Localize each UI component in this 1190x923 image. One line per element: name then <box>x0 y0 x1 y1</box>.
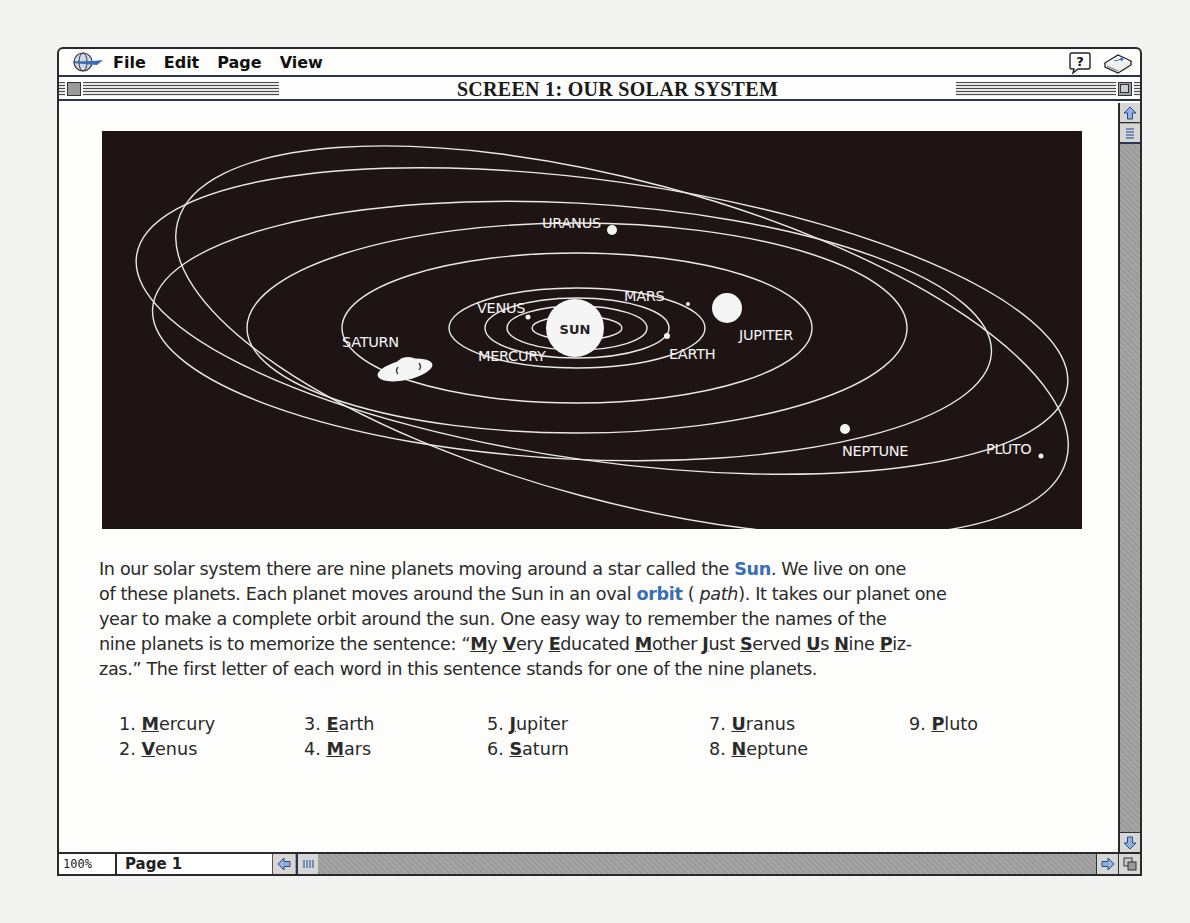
solar-system-diagram: SUN URANUS VENUS MARS <box>102 131 1082 529</box>
planet-list-item: 2. Venus <box>119 737 197 762</box>
arrow-right-icon <box>1101 857 1115 871</box>
vertical-scrollbar[interactable] <box>1118 103 1140 852</box>
paragraph-line: In our solar system there are nine plane… <box>99 557 1099 582</box>
scroll-right-button[interactable] <box>1096 854 1118 874</box>
close-box[interactable] <box>67 82 81 96</box>
arrow-left-icon <box>277 857 291 871</box>
keyword-sun-link[interactable]: Sun <box>734 559 771 579</box>
zoom-level[interactable]: 100% <box>59 854 117 874</box>
jupiter-label: JUPITER <box>738 327 793 343</box>
mars-label: MARS <box>624 288 665 304</box>
app-window: File Edit Page View ? SCREEN 1: OUR SOLA… <box>57 47 1142 876</box>
svg-text:?: ? <box>1076 54 1084 69</box>
body-paragraph: In our solar system there are nine plane… <box>99 557 1099 682</box>
scroll-down-button[interactable] <box>1120 832 1140 852</box>
resize-icon <box>1123 857 1137 871</box>
venus-label: VENUS <box>477 300 525 316</box>
planet-list-item: 5. Jupiter <box>487 712 568 737</box>
menu-edit[interactable]: Edit <box>164 53 200 72</box>
help-balloon-icon[interactable]: ? <box>1068 51 1092 75</box>
book-icon[interactable] <box>1102 51 1134 75</box>
paragraph-line: year to make a complete orbit around the… <box>99 607 1099 632</box>
zoom-box[interactable] <box>1118 82 1132 96</box>
resize-handle[interactable] <box>1118 854 1140 874</box>
planet-list-item: 6. Saturn <box>487 737 569 762</box>
pluto-label: PLUTO <box>986 441 1031 457</box>
neptune-label: NEPTUNE <box>842 443 908 459</box>
window-title: SCREEN 1: OUR SOLAR SYSTEM <box>441 78 794 101</box>
mercury-label: MERCURY <box>478 348 546 364</box>
menu-file[interactable]: File <box>113 53 146 72</box>
sun-label: SUN <box>560 322 591 337</box>
scroll-left-button[interactable] <box>273 854 295 874</box>
planet-list-item: 1. Mercury <box>119 712 215 737</box>
planet-list-item: 8. Neptune <box>709 737 808 762</box>
menu-page[interactable]: Page <box>217 53 261 72</box>
horizontal-scrollbar[interactable] <box>273 854 1140 874</box>
planet-list-item: 4. Mars <box>304 737 371 762</box>
planet-list-item: 9. Pluto <box>909 712 978 737</box>
menu-bar: File Edit Page View ? <box>59 49 1140 77</box>
title-stripes <box>1134 82 1140 96</box>
planet-list-item: 7. Uranus <box>709 712 795 737</box>
planet-list-item: 3. Earth <box>304 712 375 737</box>
globe-logo-icon[interactable] <box>69 51 105 73</box>
scroll-thumb[interactable] <box>1120 124 1140 144</box>
solar-system-illustration: SUN URANUS VENUS MARS <box>102 131 1082 529</box>
page-indicator[interactable]: Page 1 <box>117 854 273 874</box>
paragraph-line: of these planets. Each planet moves arou… <box>99 582 1099 607</box>
title-bar[interactable]: SCREEN 1: OUR SOLAR SYSTEM <box>59 79 1140 101</box>
status-bar: 100% Page 1 <box>59 852 1140 874</box>
scroll-up-button[interactable] <box>1120 103 1140 123</box>
saturn-label: SATURN <box>342 334 399 350</box>
page-content: SUN URANUS VENUS MARS <box>59 103 1118 852</box>
grip-icon <box>302 859 314 869</box>
uranus-label: URANUS <box>542 215 601 231</box>
arrow-down-icon <box>1123 836 1137 850</box>
arrow-up-icon <box>1123 106 1137 120</box>
earth-label: EARTH <box>669 346 715 362</box>
paragraph-line: zas.” The first letter of each word in t… <box>99 657 1099 682</box>
menu-view[interactable]: View <box>280 53 323 72</box>
horizontal-scroll-thumb[interactable] <box>296 854 318 874</box>
keyword-orbit-link[interactable]: orbit <box>636 584 682 604</box>
title-stripes <box>956 82 1116 96</box>
title-stripes <box>83 82 279 96</box>
grip-icon <box>1125 127 1135 139</box>
mnemonic-line: nine planets is to memorize the sentence… <box>99 632 1099 657</box>
title-stripes <box>59 82 65 96</box>
saturn-body <box>376 354 435 385</box>
